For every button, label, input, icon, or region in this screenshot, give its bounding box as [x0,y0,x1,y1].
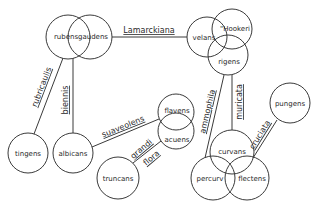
node-label-truncans: truncans [103,175,134,183]
node-label-flectens: flectens [238,175,266,183]
node-label-pungens: pungens [275,100,306,108]
node-label-velans: velans [193,34,216,42]
edge-label-biennis: biennis [61,86,70,115]
node-label-rubens: rubens [54,33,79,41]
node-label-curvans: curvans [218,148,246,156]
node-label-tingens: tingens [15,150,41,158]
species-diagram: Lamarckianarubricaulisbiennissuaveolensg… [0,0,318,207]
edge-label-cruciata: cruciata [247,119,272,151]
edge-label-lamarckiana: Lamarckiana [123,26,174,35]
edge-label-muricata: muricata [235,84,244,120]
edge-label-suaveolens: suaveolens [100,114,145,139]
node-label-hookeri: "Hookeri [220,25,250,33]
node-label-albicans: albicans [59,150,88,158]
node-label-rigens: rigens [218,58,240,66]
node-label-flavens: flavens [164,107,190,115]
diagram-canvas: Lamarckianarubricaulisbiennissuaveolensg… [0,0,318,207]
edge-label-rubricaulis: rubricaulis [30,66,53,108]
edge-label-ammophila: ammophila [198,88,217,134]
node-label-gaudens: gaudens [78,33,108,41]
node-label-acuens: acuens [165,136,190,144]
node-label-percurv: percurv [197,175,224,183]
